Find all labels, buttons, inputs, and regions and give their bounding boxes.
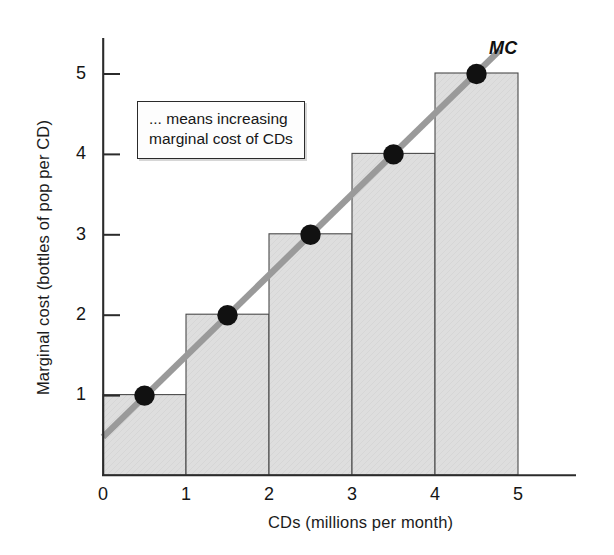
y-tick-label-5: 5 [64, 63, 86, 84]
data-point-4 [466, 64, 486, 84]
x-tick-label-5: 5 [505, 484, 531, 505]
x-tick-label-2: 2 [256, 484, 282, 505]
y-tick-label-3: 3 [64, 224, 86, 245]
increasing-marginal-cost-note: ... means increasing marginal cost of CD… [137, 101, 305, 159]
y-tick-label-1: 1 [64, 384, 86, 405]
y-tick-label-4: 4 [64, 143, 86, 164]
bar-3-4 [352, 153, 435, 475]
x-tick-label-3: 3 [339, 484, 365, 505]
y-tick-label-2: 2 [64, 304, 86, 325]
x-tick-label-1: 1 [173, 484, 199, 505]
x-axis-title: CDs (millions per month) [268, 513, 453, 532]
bar-0-1 [103, 395, 186, 475]
data-point-0 [134, 385, 154, 405]
bar-2-3 [269, 234, 352, 475]
x-tick-label-4: 4 [422, 484, 448, 505]
y-axis-title: Marginal cost (bottles of pop per CD) [34, 93, 53, 423]
bar-4-5 [435, 73, 518, 475]
mc-curve-label: MC [489, 38, 518, 59]
data-point-1 [217, 305, 237, 325]
data-point-2 [300, 225, 320, 245]
x-tick-label-0: 0 [90, 484, 116, 505]
chart-plot-area [0, 0, 614, 555]
bar-1-2 [186, 314, 269, 475]
data-point-3 [383, 144, 403, 164]
marginal-cost-chart: 5 4 3 2 1 0 1 2 3 4 5 Marginal cost (bot… [0, 0, 614, 555]
